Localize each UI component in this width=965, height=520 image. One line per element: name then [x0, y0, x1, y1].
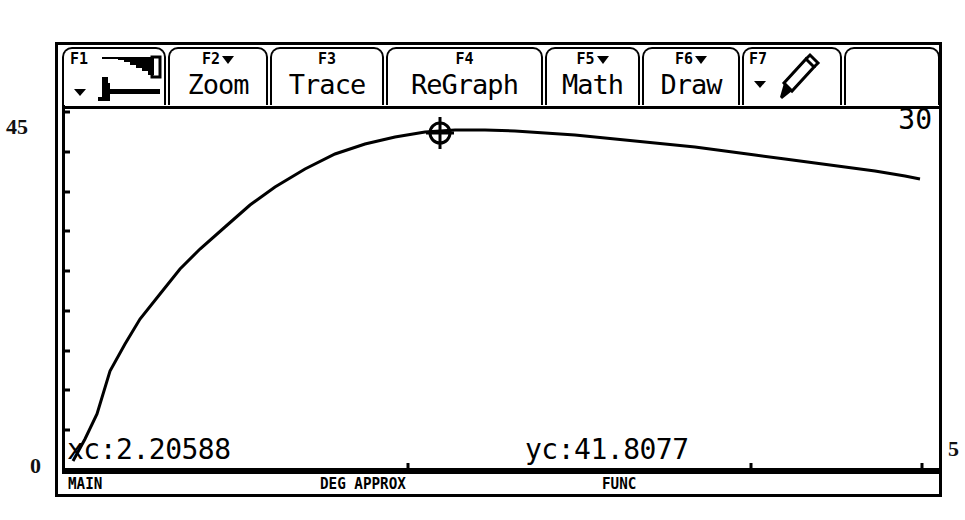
math-label: Math	[547, 68, 638, 102]
y-axis-ticks	[65, 112, 70, 430]
f6-key-label: F6	[675, 50, 693, 68]
f5-key: F5	[547, 51, 638, 67]
f2-key: F2	[170, 51, 266, 67]
graph-area[interactable]: 30 xc:2.20588 yc:41.8077	[65, 109, 940, 470]
trace-label: Trace	[272, 68, 382, 102]
f6-key: F6	[644, 51, 738, 67]
trace-cursor-icon	[426, 117, 454, 149]
tab-blank	[844, 47, 940, 105]
tab-f5-math[interactable]: F5 Math	[545, 47, 640, 105]
status-bar: MAIN DEG APPROX FUNC	[62, 474, 940, 494]
dropdown-triangle-icon	[695, 56, 707, 64]
x-max-label: 5	[948, 436, 959, 462]
tab-f1-tools[interactable]: F1	[62, 47, 166, 105]
corner-value: 30	[898, 106, 932, 134]
tab-f2-zoom[interactable]: F2 Zoom	[168, 47, 268, 105]
dropdown-triangle-icon	[222, 56, 234, 64]
regraph-label: ReGraph	[388, 68, 541, 102]
y-max-label: 45	[6, 114, 28, 140]
tools-hammer-saw-icon	[68, 51, 164, 103]
dropdown-triangle-icon	[597, 56, 609, 64]
yc-readout: yc:41.8077	[525, 435, 689, 465]
f4-key-label: F4	[388, 51, 541, 67]
f2-key-label: F2	[202, 50, 220, 68]
tab-f7-pencil[interactable]: F7	[742, 47, 842, 105]
function-key-toolbar: F1 F2 Zoom F3 Trace F4 ReGraph F5 Math F…	[62, 47, 940, 109]
draw-label: Draw	[644, 68, 738, 102]
y-min-label: 0	[30, 453, 41, 479]
function-plot	[65, 109, 940, 470]
xc-readout: xc:2.20588	[67, 435, 231, 465]
tab-f3-trace[interactable]: F3 Trace	[270, 47, 384, 105]
tab-f4-regraph[interactable]: F4 ReGraph	[386, 47, 543, 105]
status-graph-mode: FUNC	[602, 474, 636, 494]
pencil-icon	[748, 51, 840, 103]
f3-key-label: F3	[272, 51, 382, 67]
f5-key-label: F5	[576, 50, 594, 68]
tab-f6-draw[interactable]: F6 Draw	[642, 47, 740, 105]
status-modes: DEG APPROX	[320, 474, 406, 494]
status-folder: MAIN	[68, 474, 102, 494]
zoom-label: Zoom	[170, 68, 266, 102]
